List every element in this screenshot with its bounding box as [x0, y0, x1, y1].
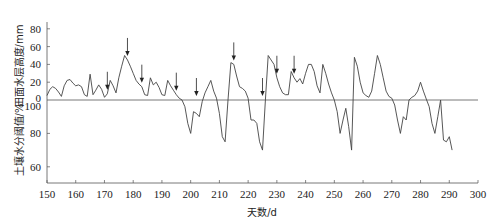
- x-axis-title: 天数/d: [247, 206, 277, 218]
- y-top-tick-label: 60: [30, 41, 42, 53]
- y-bottom-tick-label: 100: [25, 100, 42, 112]
- y-axis-title-bottom: 土壤水分阈值/%: [13, 104, 25, 177]
- y-bottom-tick-label: 60: [30, 161, 42, 173]
- arrow-head-icon: [174, 86, 178, 91]
- arrow-head-icon: [260, 91, 264, 96]
- x-tick-label: 300: [470, 188, 487, 200]
- y-axis-title-top: 田面水层高度/mm: [13, 25, 25, 108]
- x-tick-label: 150: [39, 188, 56, 200]
- x-tick-label: 250: [326, 188, 343, 200]
- y-top-tick-label: 20: [30, 76, 42, 88]
- x-tick-label: 190: [154, 188, 171, 200]
- x-tick-label: 270: [384, 188, 401, 200]
- x-tick-label: 220: [240, 188, 257, 200]
- x-tick-label: 280: [412, 188, 429, 200]
- data-line: [47, 56, 452, 151]
- arrow-head-icon: [194, 91, 198, 96]
- x-tick-label: 210: [211, 188, 228, 200]
- y-bottom-tick-label: 80: [30, 127, 42, 139]
- x-tick-label: 290: [441, 188, 458, 200]
- x-tick-label: 230: [269, 188, 286, 200]
- arrow-head-icon: [292, 69, 296, 74]
- arrow-head-icon: [125, 51, 129, 56]
- x-tick-label: 200: [182, 188, 199, 200]
- axes: [47, 22, 478, 183]
- ticks: 1501601701801902002102202302402502602702…: [25, 23, 487, 200]
- x-tick-label: 160: [67, 188, 84, 200]
- arrow-head-icon: [140, 78, 144, 83]
- x-tick-label: 170: [96, 188, 113, 200]
- chart-canvas: 1501601701801902002102202302402502602702…: [0, 0, 497, 223]
- y-top-tick-label: 80: [30, 23, 42, 35]
- x-tick-label: 180: [125, 188, 142, 200]
- x-tick-label: 240: [297, 188, 314, 200]
- arrow-head-icon: [232, 55, 236, 60]
- y-top-tick-label: 40: [30, 58, 42, 70]
- x-tick-label: 260: [355, 188, 372, 200]
